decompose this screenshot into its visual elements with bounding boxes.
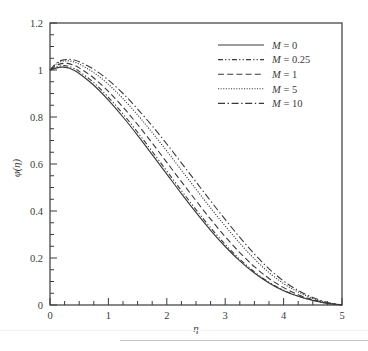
figure-panel: 012345 00.20.40.60.811.2 M = 0M = 0.25M … <box>0 0 368 351</box>
y-tick-label: 1.2 <box>30 18 43 29</box>
legend-label-4: M = 10 <box>271 98 302 109</box>
x-tick-label: 4 <box>281 310 287 321</box>
x-axis-label: η <box>193 322 198 334</box>
legend-label-2: M = 1 <box>271 69 297 80</box>
legend-label-0: M = 0 <box>271 40 297 51</box>
x-tick-label: 5 <box>339 310 344 321</box>
x-tick-label: 2 <box>164 310 169 321</box>
x-tick-label: 1 <box>106 310 111 321</box>
y-tick-label: 1 <box>38 65 43 76</box>
legend-label-3: M = 5 <box>271 84 297 95</box>
y-axis-label: φ(η) <box>11 158 23 177</box>
scan-artifact-line <box>120 340 368 341</box>
y-tick-label: 0.2 <box>30 253 43 264</box>
y-tick-label: 0 <box>38 300 43 311</box>
x-tick-label: 0 <box>47 310 52 321</box>
line-chart: 012345 00.20.40.60.811.2 M = 0M = 0.25M … <box>0 0 368 351</box>
legend-label-1: M = 0.25 <box>271 54 310 65</box>
x-tick-label: 3 <box>223 310 228 321</box>
scan-artifact-faint <box>0 330 368 331</box>
y-tick-label: 0.4 <box>30 206 44 217</box>
y-tick-label: 0.6 <box>30 159 43 170</box>
y-tick-label: 0.8 <box>30 112 43 123</box>
